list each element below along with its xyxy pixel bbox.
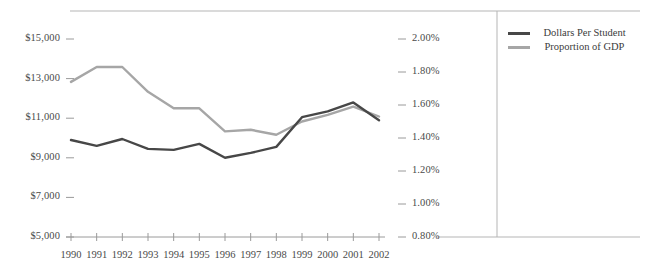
legend-item-dollars-per-student: Dollars Per Student [508,26,640,39]
y-axis-left-tick-label: $13,000 [0,72,60,83]
legend-swatch-dollars-per-student [508,32,530,35]
y-axis-right-tick-label: 1.60% [412,98,440,109]
y-axis-left-tick-label: $11,000 [0,111,60,122]
y-axis-right-tick-label: 1.40% [412,131,440,142]
y-axis-left-tick-label: $15,000 [0,32,60,43]
y-axis-left-tick-label: $7,000 [0,190,60,201]
y-axis-left-tick-label: $9,000 [0,151,60,162]
x-axis-tick-label: 2002 [359,249,399,260]
y-axis-right-tick-label: 0.80% [412,230,440,241]
chart-figure: $5,000$7,000$9,000$11,000$13,000$15,000 … [0,0,647,280]
legend-label-proportion-of-gdp: Proportion of GDP [537,40,632,53]
chart-legend: Dollars Per Student Proportion of GDP [508,26,640,54]
y-axis-right-tick-label: 1.20% [412,164,440,175]
y-axis-left-tick-label: $5,000 [0,230,60,241]
legend-swatch-proportion-of-gdp [508,46,530,49]
y-axis-right-tick-label: 1.80% [412,65,440,76]
legend-item-proportion-of-gdp: Proportion of GDP [508,40,640,53]
y-axis-right-tick-label: 1.00% [412,197,440,208]
y-axis-right-tick-label: 2.00% [412,32,440,43]
legend-label-dollars-per-student: Dollars Per Student [537,26,632,39]
y-axis-right-ticks [398,39,406,237]
series-line-proportion-of-gdp [71,67,379,135]
y-axis-left-ticks [66,39,74,237]
